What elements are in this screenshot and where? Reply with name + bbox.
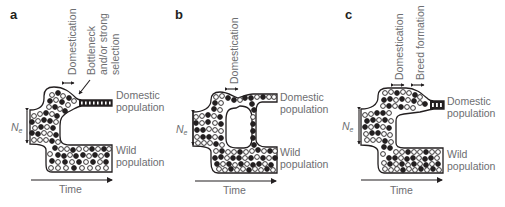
domestic-population-label-line2: population xyxy=(447,107,496,119)
panel-letter-c: c xyxy=(345,7,352,22)
population-shape xyxy=(193,92,277,173)
bottleneck-label-line1: Bottleneck xyxy=(85,25,97,75)
domestic-population-label-line2: population xyxy=(116,101,165,113)
domestication-label: Domestication xyxy=(228,17,240,84)
breed-formation-label: Breed formation xyxy=(414,5,426,80)
breed-channel xyxy=(430,101,444,109)
domestication-label: Domestication xyxy=(393,13,405,80)
time-label: Time xyxy=(59,183,82,195)
domestication-diagram: a Domestication Bottleneck and/or strong… xyxy=(0,0,505,207)
wild-population-label-line1: Wild xyxy=(116,144,137,156)
bottleneck-label-line3: selection xyxy=(109,33,121,75)
time-label: Time xyxy=(390,184,413,196)
domestic-population-label-line2: population xyxy=(280,103,329,115)
wild-population-label-line2: population xyxy=(447,160,496,172)
wild-population-label-line1: Wild xyxy=(280,146,301,158)
bottleneck-channel xyxy=(79,100,112,106)
panel-letter-a: a xyxy=(10,7,18,22)
domestic-population-label-line1: Domestic xyxy=(447,95,491,107)
wild-population-label-line2: population xyxy=(280,158,329,170)
ne-label: Ne xyxy=(342,120,354,133)
panel-letter-b: b xyxy=(175,7,183,22)
domestic-population-label-line1: Domestic xyxy=(116,89,160,101)
panel-b: b Domestication xyxy=(175,7,329,196)
bottleneck-pointer-arrow xyxy=(79,80,90,94)
panel-c: c Domestication Breed formation xyxy=(342,5,496,196)
panel-a: a Domestication Bottleneck and/or strong… xyxy=(10,7,165,195)
ne-label: Ne xyxy=(11,121,23,134)
ne-label: Ne xyxy=(176,123,188,136)
domestic-population-label-line1: Domestic xyxy=(280,91,324,103)
wild-population-label-line1: Wild xyxy=(447,148,468,160)
time-label: Time xyxy=(223,184,246,196)
wild-population-label-line2: population xyxy=(116,156,165,168)
domestication-label: Domestication xyxy=(66,8,78,75)
bottleneck-label-line2: and/or strong xyxy=(97,13,109,75)
